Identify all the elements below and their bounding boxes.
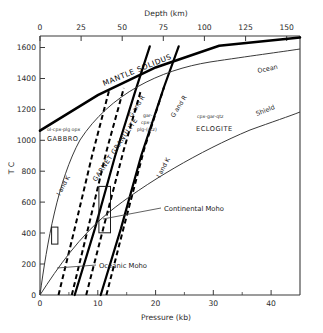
left-axis: 1600 1400 1200 1000 800 600 400 200 0 T … bbox=[7, 36, 45, 300]
gabbro-label: GABBRO bbox=[47, 135, 78, 143]
region-labels: ol-cpx-plg opx GABBRO cpx-gar-qtz ECLOGI… bbox=[47, 113, 233, 183]
top-tick-label: 75 bbox=[158, 23, 168, 32]
bottom-tick-label: 20 bbox=[151, 299, 161, 308]
bottom-axis-title: Pressure (kb) bbox=[141, 313, 191, 322]
bottom-tick-label: 10 bbox=[93, 299, 103, 308]
bottom-tick-label: 40 bbox=[266, 299, 276, 308]
garnet-granulite-label: GARNET GRANULITE bbox=[91, 117, 140, 184]
left-tick-label: 800 bbox=[22, 167, 37, 176]
top-tick-label: 150 bbox=[279, 23, 294, 32]
annotations: Continental Moho Oceanic Moho bbox=[57, 205, 224, 270]
bottom-tick-label: 0 bbox=[38, 299, 43, 308]
left-tick-label: 200 bbox=[22, 260, 37, 269]
oceanic-moho-box bbox=[52, 227, 58, 244]
left-axis-title: T C bbox=[7, 162, 16, 175]
bottom-axis: 0 10 20 30 40 Pressure (kb) bbox=[38, 36, 300, 322]
eclogite-formula: cpx-gar-qtz bbox=[197, 114, 224, 119]
top-tick-label: 50 bbox=[117, 23, 127, 32]
top-axis: 0 25 50 75 100 125 150 Depth (km) bbox=[38, 9, 300, 41]
continental-moho-label: Continental Moho bbox=[164, 205, 224, 213]
ocean-geotherm-line bbox=[40, 49, 300, 295]
mantle-solidus-line bbox=[40, 38, 300, 131]
i-and-k-label-1: I and K bbox=[55, 173, 72, 196]
g-and-r-boundaries: G and R G and R bbox=[75, 46, 189, 295]
shield-geotherm-label: Shield bbox=[255, 103, 276, 118]
ocean-geotherm-label: Ocean bbox=[257, 63, 279, 75]
bottom-tick-label: 30 bbox=[208, 299, 218, 308]
top-tick-label: 0 bbox=[38, 23, 43, 32]
left-tick-label: 0 bbox=[31, 291, 36, 300]
phase-diagram-figure: 0 25 50 75 100 125 150 Depth (km) 1600 1… bbox=[0, 0, 323, 333]
oceanic-moho-label: Oceanic Moho bbox=[99, 262, 147, 270]
top-tick-label: 100 bbox=[197, 23, 212, 32]
top-tick-label: 25 bbox=[76, 23, 86, 32]
eclogite-label: ECLOGITE bbox=[196, 125, 233, 133]
left-tick-label: 400 bbox=[22, 229, 37, 238]
gabbro-formula: ol-cpx-plg opx bbox=[47, 127, 80, 132]
top-axis-title: Depth (km) bbox=[144, 9, 187, 18]
left-tick-label: 1200 bbox=[17, 105, 36, 114]
left-tick-label: 1600 bbox=[17, 43, 36, 52]
top-tick-label: 125 bbox=[238, 23, 253, 32]
left-tick-label: 1000 bbox=[17, 136, 36, 145]
g-and-r-label-2: G and R bbox=[169, 93, 188, 118]
geotherm-curves: Ocean Shield bbox=[40, 49, 300, 295]
oceanic-moho-leader bbox=[57, 265, 96, 268]
granulite-formula-line-3: plg-(qtz) bbox=[137, 127, 157, 132]
left-tick-label: 1400 bbox=[17, 74, 36, 83]
granulite-formula-line-1: gar- bbox=[143, 113, 152, 118]
plot-canvas: 0 25 50 75 100 125 150 Depth (km) 1600 1… bbox=[0, 0, 323, 333]
left-tick-label: 600 bbox=[22, 198, 37, 207]
granulite-formula-line-2: cpx- bbox=[141, 120, 151, 125]
mantle-solidus-curve: MANTLE SOLIDUS bbox=[40, 38, 300, 131]
